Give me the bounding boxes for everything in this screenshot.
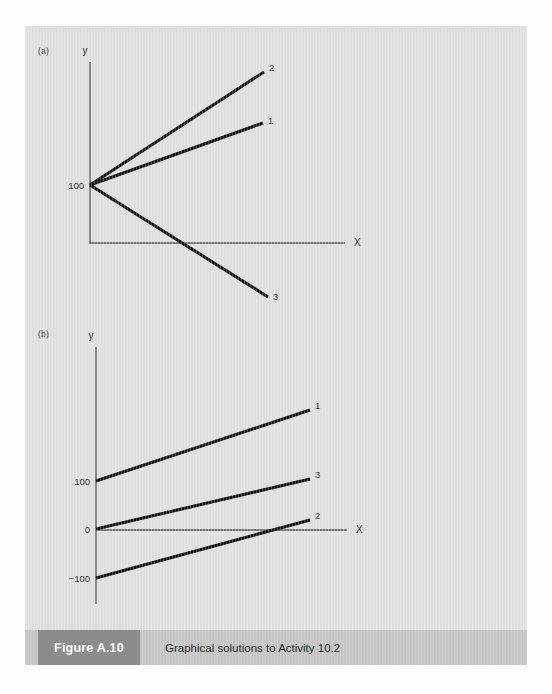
panel-b-ytick-neg100: −100 — [69, 573, 90, 584]
panel-b-series-2-label: 2 — [315, 510, 320, 521]
panel-b: (b) y X 100 0 −100 1 3 — [25, 26, 527, 630]
panel-b-series-3-label: 3 — [315, 469, 320, 480]
panel-b-series-2 — [96, 520, 310, 578]
page-canvas: (a) y X 100 1 2 3 — [0, 0, 552, 694]
panel-b-x-axis-label: X — [356, 524, 363, 535]
figure-panel: (a) y X 100 1 2 3 — [25, 26, 527, 630]
panel-b-series-1 — [96, 410, 310, 481]
figure-caption-bar: Figure A.10 Graphical solutions to Activ… — [25, 630, 527, 665]
figure-number-box: Figure A.10 — [38, 630, 140, 665]
panel-b-y-axis-label: y — [89, 330, 94, 341]
panel-b-ytick-0: 0 — [85, 524, 90, 535]
panel-b-series-3 — [96, 479, 310, 529]
panel-b-series-1-label: 1 — [315, 400, 320, 411]
panel-b-tag: (b) — [38, 329, 49, 339]
panel-b-ytick-100: 100 — [74, 476, 90, 487]
figure-number-label: Figure A.10 — [54, 641, 124, 655]
figure-caption-text: Graphical solutions to Activity 10.2 — [165, 630, 340, 665]
